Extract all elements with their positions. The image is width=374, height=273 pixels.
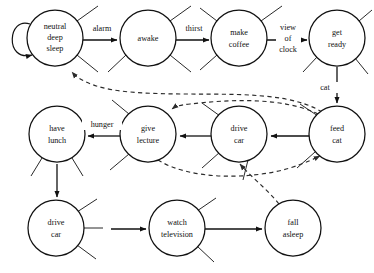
edge-feed-cat-to-neutral-deep-sleep-dashed[interactable] [72,72,322,112]
node-label-line: cat [332,136,342,145]
edge-label-text: alarm [93,24,112,33]
node-watch-television[interactable]: watch television [149,200,205,256]
node-give-lecture[interactable]: give lecture [120,106,176,162]
node-circle[interactable] [211,106,267,162]
node-label-line: awake [138,34,159,43]
node-label-line: have [49,124,65,133]
edge-label-text: cat [320,83,330,92]
node-label-line: drive [48,218,65,227]
node-label-line: car [51,230,61,239]
node-label-line: drive [231,124,248,133]
node-feed-cat[interactable]: feed cat [309,106,365,162]
node-circle[interactable] [309,106,365,162]
edge-label-text: thirst [186,24,204,33]
node-circle[interactable] [120,106,176,162]
diagram-canvas: neutral deep sleep awake make coffee get… [0,0,374,273]
node-label-line: lecture [137,136,160,145]
node-neutral-deep-sleep[interactable]: neutral deep sleep [27,10,83,66]
node-label-line: asleep [283,230,303,239]
edge-label-thirst: thirst [178,23,210,34]
edge-label-text: hunger [91,120,114,129]
edge-label-alarm: alarm [86,23,118,34]
node-label-line: lunch [48,136,66,145]
node-circle[interactable] [309,10,365,66]
edge-label-text: clock [279,45,298,54]
node-have-lunch[interactable]: have lunch [29,106,85,162]
node-drive-car-mid[interactable]: drive car [211,106,267,162]
node-label-line: give [141,124,155,133]
edge-label-text: of [285,34,292,43]
node-circle[interactable] [149,200,205,256]
node-fall-asleep[interactable]: fall asleep [265,200,321,256]
node-label-line: ready [328,40,347,49]
node-circle[interactable] [211,10,267,66]
node-label-line: sleep [47,44,64,53]
dashed-transitions [72,72,322,204]
node-label-line: coffee [229,40,250,49]
edge-label-cat: cat [312,82,338,93]
node-circle[interactable] [28,200,84,256]
node-drive-car-bottom[interactable]: drive car [28,200,84,256]
node-label-line: feed [330,124,344,133]
edge-label-hunger: hunger [82,119,122,130]
edge-label-view-of-clock: view of clock [270,22,307,55]
node-circle[interactable] [29,106,85,162]
node-circle[interactable] [265,200,321,256]
node-label-line: car [234,136,244,145]
edge-label-text: view [280,23,296,32]
node-label-line: get [332,28,343,37]
state-transition-diagram: neutral deep sleep awake make coffee get… [0,0,374,273]
node-label-line: television [161,230,193,239]
nodes: neutral deep sleep awake make coffee get… [27,10,365,256]
node-make-coffee[interactable]: make coffee [211,10,267,66]
node-awake[interactable]: awake [120,10,176,66]
node-label-line: neutral [44,22,67,31]
node-label-line: fall [288,218,300,227]
node-label-line: deep [47,33,62,42]
edge-fall-asleep-to-drive-car-dashed[interactable] [240,164,279,204]
node-label-line: watch [167,218,187,227]
node-label-line: make [230,28,248,37]
node-get-ready[interactable]: get ready [309,10,365,66]
